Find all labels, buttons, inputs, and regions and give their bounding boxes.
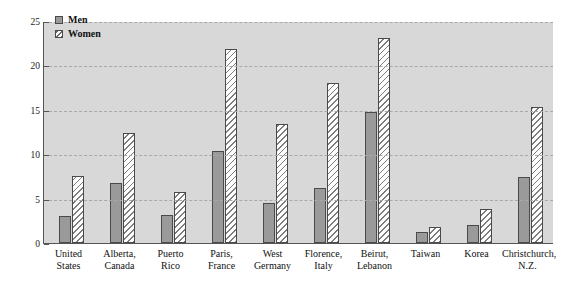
gridline [44,200,553,201]
y-tick-mark [44,200,49,201]
bar-group [59,22,84,243]
y-tick-mark [44,155,49,156]
y-tick-label: 20 [18,61,40,71]
x-category-label: WestGermany [247,248,298,272]
y-tick-mark [44,244,49,245]
x-category-label: UnitedStates [43,248,94,272]
bar-men [110,183,122,243]
legend-swatch-women-icon [55,30,63,38]
chart-legend: Men Women [55,13,101,41]
legend-label-women: Women [68,28,101,39]
y-tick-label: 5 [18,195,40,205]
bar-group [416,22,441,243]
x-category-label: Alberta,Canada [94,248,145,272]
x-category-label: PuertoRico [145,248,196,272]
bar-women [72,176,84,243]
y-tick-label: 0 [18,239,40,249]
legend-label-men: Men [68,14,87,25]
bar-women [429,227,441,243]
gridline [44,22,553,23]
legend-item-men: Men [55,13,101,26]
x-category-label: Florence,Italy [298,248,349,272]
bar-group [518,22,543,243]
legend-item-women: Women [55,27,101,40]
bar-men [518,177,530,243]
y-tick-label: 10 [18,150,40,160]
bar-women [225,49,237,243]
gridline [44,111,553,112]
bar-group [467,22,492,243]
bar-women [123,133,135,243]
top-crop-artifact [248,4,318,7]
bar-group [314,22,339,243]
bar-group [212,22,237,243]
bar-men [365,112,377,243]
bar-group [110,22,135,243]
bar-men [263,203,275,243]
legend-swatch-men-icon [55,16,63,24]
y-tick-mark [44,22,49,23]
bars-layer [44,22,553,243]
gridline [44,66,553,67]
x-category-label: Christchurch,N.Z. [502,248,553,272]
bar-men [59,216,71,243]
bar-men [416,232,428,243]
bar-men [314,188,326,243]
x-category-label: Beirut,Lebanon [349,248,400,272]
bar-women [480,209,492,243]
y-tick-label: 25 [18,17,40,27]
bar-women [276,124,288,243]
bar-group [263,22,288,243]
y-tick-mark [44,66,49,67]
bar-men [161,215,173,243]
bar-women [378,38,390,243]
x-category-label: Korea [451,248,502,260]
bar-group [365,22,390,243]
y-tick-label: 15 [18,106,40,116]
x-category-label: Taiwan [400,248,451,260]
x-category-label: Paris,France [196,248,247,272]
gridline [44,155,553,156]
plot-area [43,22,553,244]
bar-men [467,225,479,243]
bar-women [531,107,543,243]
bar-men [212,151,224,243]
depression-rate-bar-chart: Lifetime Rate of Depression 0510152025 U… [0,0,566,289]
y-tick-mark [44,111,49,112]
bar-women [327,83,339,243]
bar-group [161,22,186,243]
